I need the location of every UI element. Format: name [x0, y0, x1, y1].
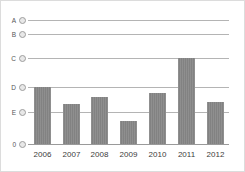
bar: [207, 102, 224, 144]
y-axis-tick-label: C: [2, 55, 16, 62]
gridline-a: [28, 20, 229, 21]
x-axis-tick-label: 2012: [201, 150, 231, 160]
y-axis-tick-label: A: [2, 17, 16, 24]
axis-marker-d: [19, 84, 26, 91]
bar: [63, 104, 80, 144]
bar: [120, 121, 137, 144]
y-axis-tick-label: 0: [2, 141, 16, 148]
y-axis-tick-label: E: [2, 109, 16, 116]
axis-marker-c: [19, 55, 26, 62]
x-axis-tick-label: 2006: [28, 150, 58, 160]
x-axis-tick-label: 2007: [57, 150, 87, 160]
x-axis-tick-label: 2011: [172, 150, 202, 160]
chart-container: ABCDE02006200720082009201020112012: [0, 0, 245, 172]
gridline-b: [28, 34, 229, 35]
bar: [149, 93, 166, 144]
x-axis-tick-label: 2008: [85, 150, 115, 160]
bar: [91, 97, 108, 144]
gridline-e: [28, 112, 229, 113]
x-axis-tick-label: 2010: [143, 150, 173, 160]
axis-marker-e: [19, 109, 26, 116]
axis-marker-a: [19, 17, 26, 24]
axis-marker-0: [19, 141, 26, 148]
x-axis-tick-label: 2009: [114, 150, 144, 160]
bar: [178, 58, 195, 144]
gridline-c: [28, 58, 229, 59]
y-axis-tick-label: D: [2, 84, 16, 91]
gridline-d: [28, 87, 229, 88]
x-axis-line: [28, 144, 229, 145]
bar-chart-plot-area: ABCDE02006200720082009201020112012: [1, 1, 245, 172]
axis-marker-b: [19, 31, 26, 38]
y-axis-tick-label: B: [2, 31, 16, 38]
bar: [34, 87, 51, 144]
